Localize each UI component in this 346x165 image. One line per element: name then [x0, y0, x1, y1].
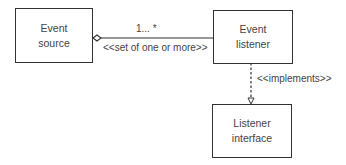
class-listener-interface[interactable]: Listener interface [212, 104, 292, 158]
class-label: Event source [38, 21, 70, 51]
aggregation-diamond-icon [93, 35, 101, 41]
multiplicity-label: 1... * [136, 23, 157, 34]
class-event-source[interactable]: Event source [15, 8, 93, 63]
class-label: Listener interface [232, 116, 272, 146]
class-label: Event listener [236, 22, 270, 52]
realization-stereotype-label: <<implements>> [257, 73, 332, 84]
class-event-listener[interactable]: Event listener [213, 10, 293, 64]
aggregation-stereotype-label: <<set of one or more>> [103, 42, 208, 53]
